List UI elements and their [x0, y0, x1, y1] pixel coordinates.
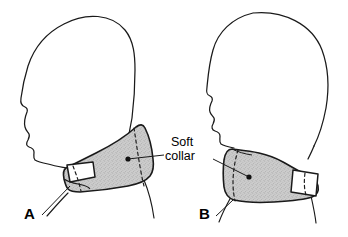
figure-container: Soft collar A B	[0, 0, 348, 237]
callout-label-collar: collar	[165, 149, 195, 164]
soft-collar-illustration	[0, 0, 348, 237]
panel-a-collar-body	[63, 125, 153, 192]
panel-a-shoulder-line-back	[144, 180, 154, 218]
panel-a-figure	[21, 16, 164, 218]
panel-b-figure	[207, 13, 328, 223]
panel-b-shoulder-line-back	[311, 196, 316, 223]
panel-letter-b: B	[199, 206, 210, 221]
panel-b-shoulder-line-front	[219, 197, 231, 222]
panel-letter-a: A	[24, 206, 35, 221]
panel-b-neck-back-line	[308, 146, 314, 159]
panel-b-head-outline	[207, 13, 328, 148]
callout-label-soft: Soft	[171, 135, 193, 150]
panel-b-letter-leader-line	[216, 200, 233, 216]
panel-a-shoulder-line-front	[47, 193, 68, 216]
panel-a-letter-leader-line	[42, 186, 70, 215]
